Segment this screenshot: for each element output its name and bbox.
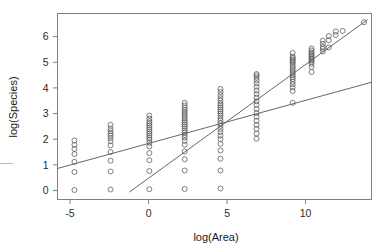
shallow-regression-line bbox=[58, 82, 372, 168]
data-point bbox=[182, 168, 187, 173]
y-tick-label: 2 bbox=[43, 133, 49, 145]
data-point bbox=[290, 100, 295, 105]
x-tick-label: 10 bbox=[300, 207, 312, 219]
data-point bbox=[333, 29, 338, 34]
data-point bbox=[320, 38, 325, 43]
data-point bbox=[147, 187, 152, 192]
y-tick-label: 6 bbox=[43, 30, 49, 42]
data-point bbox=[108, 122, 113, 127]
data-point bbox=[182, 186, 187, 191]
data-point bbox=[182, 157, 187, 162]
x-tick-label: 0 bbox=[146, 207, 152, 219]
data-point bbox=[108, 169, 113, 174]
data-point bbox=[218, 156, 223, 161]
data-point bbox=[108, 187, 113, 192]
data-point bbox=[147, 151, 152, 156]
data-point bbox=[147, 158, 152, 163]
plot-canvas: -50510 0123456 log(Area) log(Species) bbox=[0, 0, 384, 252]
y-tick-label: 1 bbox=[43, 159, 49, 171]
x-axis: -50510 bbox=[65, 200, 311, 219]
species-area-scatter-figure: -50510 0123456 log(Area) log(Species) bbox=[0, 0, 384, 252]
data-point bbox=[309, 69, 314, 74]
data-points bbox=[72, 20, 367, 193]
data-point bbox=[254, 136, 259, 141]
y-tick-label: 5 bbox=[43, 56, 49, 68]
y-tick-label: 0 bbox=[43, 184, 49, 196]
data-point bbox=[218, 168, 223, 173]
data-point bbox=[72, 170, 77, 175]
data-point bbox=[218, 86, 223, 91]
x-tick-label: 5 bbox=[224, 207, 230, 219]
x-axis-title: log(Area) bbox=[193, 231, 238, 243]
steep-regression-line bbox=[129, 20, 367, 192]
y-tick-label: 3 bbox=[43, 107, 49, 119]
x-tick-label: -5 bbox=[65, 207, 74, 219]
data-point bbox=[290, 51, 295, 56]
data-point bbox=[218, 148, 223, 153]
data-point bbox=[72, 188, 77, 193]
data-point bbox=[340, 28, 345, 33]
data-point bbox=[218, 186, 223, 191]
data-point bbox=[147, 169, 152, 174]
data-point bbox=[147, 113, 152, 118]
y-axis: 0123456 bbox=[43, 30, 58, 196]
y-axis-title: log(Species) bbox=[7, 76, 19, 137]
data-point bbox=[108, 158, 113, 163]
y-tick-label: 4 bbox=[43, 82, 49, 94]
data-point bbox=[72, 152, 77, 157]
